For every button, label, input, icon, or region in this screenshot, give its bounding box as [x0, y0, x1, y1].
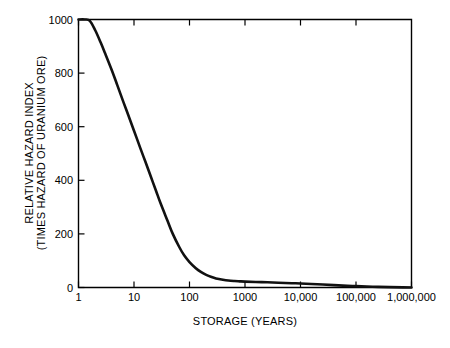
hazard-index-curve	[79, 19, 412, 287]
x-tick-label-1000000: 1,000,000	[387, 291, 436, 303]
x-axis-ticks	[79, 20, 412, 288]
x-tick-label-10: 10	[128, 291, 140, 303]
y-tick-label-600: 600	[55, 121, 73, 133]
x-axis-title: STORAGE (YEARS)	[193, 315, 297, 327]
chart-figure: 0 200 400 600 800 1000 1 10 1	[0, 0, 450, 348]
x-tick-label-1: 1	[75, 291, 81, 303]
x-tick-label-100: 100	[180, 291, 198, 303]
x-tick-label-100000: 100,000	[336, 291, 376, 303]
y-axis-title-line2: (TIMES HAZARD OF URANIUM ORE)	[35, 56, 47, 251]
y-axis-tick-labels: 0 200 400 600 800 1000	[49, 14, 73, 294]
y-tick-label-0: 0	[67, 282, 73, 294]
x-axis-tick-labels: 1 10 100 1000 10,000 100,000 1,000,000	[75, 291, 436, 303]
y-tick-label-400: 400	[55, 174, 73, 186]
y-axis-ticks	[79, 20, 85, 288]
y-tick-label-800: 800	[55, 67, 73, 79]
y-axis-title: RELATIVE HAZARD INDEX (TIMES HAZARD OF U…	[23, 56, 47, 251]
y-tick-label-200: 200	[55, 228, 73, 240]
y-axis-title-line1: RELATIVE HAZARD INDEX	[23, 82, 35, 224]
x-tick-label-10000: 10,000	[284, 291, 318, 303]
x-tick-label-1000: 1000	[233, 291, 257, 303]
y-tick-label-1000: 1000	[49, 14, 73, 26]
plot-frame	[79, 20, 412, 288]
hazard-index-line-chart: 0 200 400 600 800 1000 1 10 1	[0, 0, 450, 348]
